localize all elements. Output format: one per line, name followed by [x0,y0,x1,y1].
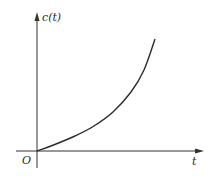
origin-label: O [22,155,31,166]
curve-c-of-t [37,39,155,151]
y-axis-arrow-icon [35,12,40,21]
x-axis-arrow-icon [195,149,204,154]
x-axis-label: t [192,156,196,167]
chart-canvas [0,0,218,178]
y-axis-label: c(t) [42,12,61,23]
